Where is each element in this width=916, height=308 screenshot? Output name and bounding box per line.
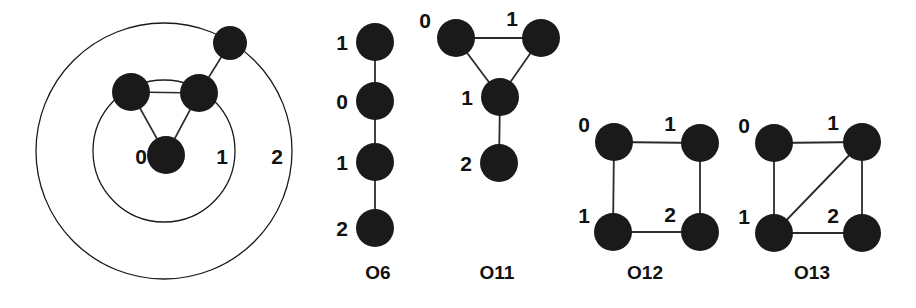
graph-node-label: 1 [336, 31, 348, 54]
graph-O6: 1012O6 [336, 23, 394, 283]
shell-node-shell2-top [213, 26, 247, 60]
graph-caption-O12: O12 [627, 262, 663, 283]
graph-O11: 0112O11 [419, 7, 560, 283]
graph-node-label: 2 [336, 217, 348, 240]
shell-node-shell1-left [112, 73, 150, 111]
graph-node-label: 1 [506, 7, 518, 30]
graph-caption-O13: O13 [794, 262, 830, 283]
shell-ring-label-2: 2 [271, 145, 283, 168]
graph-node-label: 1 [578, 204, 590, 227]
graph-node [595, 123, 633, 161]
graph-node [755, 214, 793, 252]
graph-node-label: 0 [419, 9, 431, 32]
graph-node-label: 1 [827, 111, 839, 134]
graph-node [356, 23, 394, 61]
shell-ring-label-1: 1 [216, 145, 228, 168]
graph-O12: 0112O12 [578, 112, 719, 283]
graph-node [480, 144, 518, 182]
graph-node [356, 82, 394, 120]
shell-node-shell1-right [180, 74, 218, 112]
graph-node [522, 19, 560, 57]
graph-node-label: 1 [461, 86, 473, 109]
graph-node [481, 78, 519, 116]
graph-O13: 0112O13 [738, 111, 881, 283]
shell-ring-label-0: 0 [135, 145, 147, 168]
shell-node-center [147, 136, 185, 174]
graph-node [681, 124, 719, 162]
graph-node-label: 1 [336, 151, 348, 174]
graph-node-label: 2 [460, 152, 472, 175]
graph-node [755, 124, 793, 162]
graph-node-label: 2 [827, 204, 839, 227]
graph-node [681, 213, 719, 251]
graph-node-label: 0 [336, 90, 348, 113]
graph-caption-O6: O6 [365, 262, 390, 283]
graph-node [843, 214, 881, 252]
graph-node [356, 209, 394, 247]
concentric-shell-diagram: 012 [36, 23, 292, 279]
graph-node-label: 0 [578, 113, 590, 136]
graph-node-label: 2 [664, 203, 676, 226]
graph-node-label: 0 [738, 114, 750, 137]
graph-node [843, 123, 881, 161]
graph-node-label: 1 [664, 112, 676, 135]
graph-figure: 0121012O60112O110112O120112O13 [0, 0, 916, 308]
graph-node-label: 1 [738, 205, 750, 228]
graph-node [356, 143, 394, 181]
figure-canvas: 0121012O60112O110112O120112O13 [0, 0, 916, 308]
graph-node [437, 19, 475, 57]
graph-caption-O11: O11 [480, 262, 515, 283]
graph-node [594, 213, 632, 251]
